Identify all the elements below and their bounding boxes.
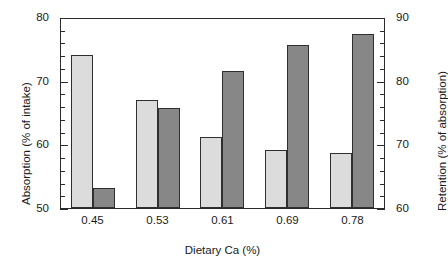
bar-retention (352, 34, 374, 208)
axis-tick-label: 60 (396, 203, 409, 215)
axis-tick-label: 80 (396, 76, 409, 88)
axis-tick-label: 80 (36, 12, 49, 24)
axis-tick-minor (60, 43, 65, 44)
axis-tick-major (377, 145, 385, 146)
axis-tick-minor (380, 56, 385, 57)
axis-tick-label: 60 (36, 139, 49, 151)
axis-tick-major (60, 82, 68, 83)
axis-tick-major (377, 18, 385, 19)
x-tick-label: 0.53 (146, 214, 168, 226)
axis-tick-minor (380, 158, 385, 159)
x-tick-label: 0.78 (341, 214, 363, 226)
axis-tick-label: 70 (396, 139, 409, 151)
axis-tick-minor (380, 94, 385, 95)
bar-group (71, 19, 115, 208)
axis-tick-minor (60, 158, 65, 159)
axis-tick-minor (380, 184, 385, 185)
axis-tick-minor (380, 43, 385, 44)
axis-tick-minor (60, 31, 65, 32)
axis-tick-label: 90 (396, 12, 409, 24)
axis-tick-minor (60, 56, 65, 57)
bar-retention (158, 108, 180, 208)
bar-retention (222, 71, 244, 208)
axis-tick-minor (60, 94, 65, 95)
bar-group (200, 19, 244, 208)
bar-retention (93, 188, 115, 208)
bar-group (265, 19, 309, 208)
axis-tick-major (377, 82, 385, 83)
bar-retention (287, 45, 309, 208)
bar-absorption (265, 150, 287, 208)
axis-tick-minor (380, 107, 385, 108)
bar-absorption (330, 153, 352, 208)
axis-tick-minor (60, 184, 65, 185)
bar-groups (61, 19, 384, 208)
axis-tick-minor (60, 133, 65, 134)
axis-tick-minor (380, 196, 385, 197)
bar-absorption (136, 100, 158, 208)
x-tick-label: 0.61 (211, 214, 233, 226)
axis-tick-label: 70 (36, 76, 49, 88)
axis-tick-minor (380, 120, 385, 121)
x-tick-label: 0.69 (276, 214, 298, 226)
axis-tick-minor (60, 196, 65, 197)
bar-absorption (200, 137, 222, 208)
axis-tick-minor (60, 120, 65, 121)
axis-tick-minor (60, 69, 65, 70)
axis-tick-major (377, 209, 385, 210)
axis-tick-minor (60, 107, 65, 108)
y-axis-left-title: Absorption (% of intake) (20, 82, 32, 205)
plot-area (60, 18, 385, 209)
axis-tick-minor (380, 69, 385, 70)
bar-absorption (71, 55, 93, 208)
axis-tick-major (60, 18, 68, 19)
x-tick-label: 0.45 (81, 214, 103, 226)
bar-group (330, 19, 374, 208)
y-axis-right-title: Retention (% of absorption) (436, 71, 448, 211)
x-axis-title: Dietary Ca (%) (0, 244, 445, 256)
axis-tick-minor (380, 133, 385, 134)
axis-tick-minor (60, 171, 65, 172)
axis-tick-minor (380, 31, 385, 32)
axis-tick-minor (380, 171, 385, 172)
bar-group (136, 19, 180, 208)
axis-tick-major (60, 209, 68, 210)
axis-tick-major (60, 145, 68, 146)
axis-tick-label: 50 (36, 203, 49, 215)
